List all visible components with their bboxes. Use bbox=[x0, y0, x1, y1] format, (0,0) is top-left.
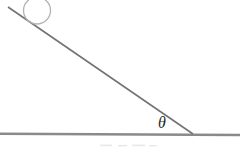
angle-theta-label: θ bbox=[158, 114, 166, 131]
diagram-svg: θ bbox=[0, 0, 240, 147]
cutoff-text-artifact bbox=[100, 145, 157, 147]
ball-circle bbox=[24, 0, 51, 24]
ground-line bbox=[0, 134, 240, 135]
incline-diagram: θ bbox=[0, 0, 240, 147]
